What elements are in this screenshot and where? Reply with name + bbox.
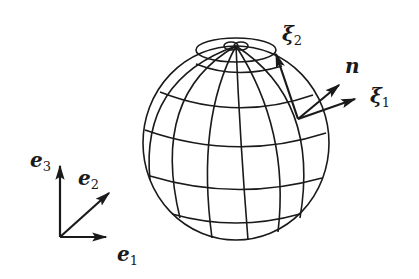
- e2-label: e2: [78, 168, 99, 191]
- xi1-label: ξ1: [370, 86, 390, 109]
- xi2-label: ξ2: [282, 24, 302, 47]
- e2-arrow: [60, 193, 109, 237]
- latitude-line: [150, 176, 322, 190]
- n-label: n: [345, 56, 360, 76]
- diagram-canvas: [0, 0, 419, 279]
- longitude-line: [236, 46, 248, 240]
- n-arrow: [298, 85, 339, 119]
- longitude-line: [207, 46, 236, 238]
- xi1-arrow: [298, 99, 355, 119]
- longitude-line: [149, 46, 236, 180]
- local-frame: [276, 54, 355, 119]
- sphere: [143, 38, 329, 240]
- longitude-line: [236, 46, 280, 232]
- e1-label: e1: [117, 244, 138, 267]
- e3-label: e3: [30, 150, 51, 173]
- latitude-line: [172, 214, 300, 223]
